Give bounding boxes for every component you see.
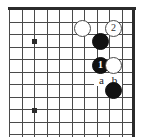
grid-line-vertical <box>47 9 48 137</box>
grid-line-vertical <box>72 9 73 137</box>
stone-white-plain-upper <box>74 20 91 37</box>
stone-black-plain-upper <box>92 33 109 50</box>
stone-white-move-2: 2 <box>105 20 122 37</box>
go-board-diagram: ab 21 <box>0 0 141 137</box>
grid-line-vertical <box>22 9 23 137</box>
star-point-lower <box>32 108 37 113</box>
grid-line-vertical <box>9 9 10 137</box>
board-edge-right <box>132 7 135 137</box>
stone-black-plain-lower <box>105 82 122 99</box>
stone-move-number: 2 <box>111 23 116 33</box>
grid-line-vertical <box>34 9 35 137</box>
stone-white-plain-right <box>105 57 122 74</box>
board-edge-top <box>8 7 136 10</box>
grid-line-vertical <box>59 9 60 137</box>
star-point-upper <box>32 39 37 44</box>
stone-move-number: 1 <box>98 60 103 70</box>
